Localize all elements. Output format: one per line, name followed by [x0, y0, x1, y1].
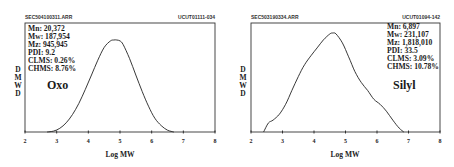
chart-silyl: SEC503190334.ARR UCUT01094-142 Mn: 6,897…	[239, 14, 441, 159]
x-tick-label: 3	[281, 138, 284, 144]
stats-box-right: Mn: 6,897 Mw: 231,107 Mz: 1,818,010 PDI:…	[387, 22, 439, 71]
x-tick-label: 7	[182, 138, 185, 144]
stat-chms: CHMS: 10.78%	[387, 62, 439, 71]
stats-box-left: Mn: 20,372 Mw: 187,954 Mz: 945,945 PDI: …	[28, 24, 76, 73]
sample-id-right: UCUT01094-142	[402, 14, 440, 20]
x-tick-label: 8	[439, 138, 442, 144]
x-axis-ticks-left: 2345678	[24, 131, 217, 145]
x-axis-label-left: Log MW	[106, 150, 135, 159]
chart-oxo: SEC504100311.ARR UCUT01111-034 Mn: 20,37…	[14, 14, 216, 159]
x-tick-label: 3	[55, 138, 58, 144]
x-axis-label-right: Log MW	[331, 150, 360, 159]
x-tick-label: 2	[250, 138, 253, 144]
x-tick-label: 2	[24, 138, 27, 144]
x-tick-label: 5	[344, 138, 347, 144]
svg-text:D: D	[240, 89, 246, 98]
y-axis-label-left: D M W D	[14, 65, 22, 98]
x-tick-label: 5	[119, 138, 122, 144]
x-tick-label: 6	[150, 138, 153, 144]
svg-text:D: D	[15, 89, 21, 98]
x-tick-label: 4	[87, 138, 90, 144]
y-axis-label-right: D M W D	[239, 65, 247, 98]
series-label-oxo: Oxo	[47, 78, 68, 92]
x-tick-label: 6	[376, 138, 379, 144]
x-axis-ticks-right: 2345678	[250, 131, 442, 145]
series-label-silyl: Silyl	[393, 78, 416, 92]
x-tick-label: 8	[214, 138, 217, 144]
file-name-left: SEC504100311.ARR	[25, 14, 73, 20]
file-name-right: SEC503190334.ARR	[251, 14, 299, 20]
distribution-curve-silyl	[264, 33, 404, 132]
x-tick-label: 7	[407, 138, 410, 144]
stat-chms: CHMS: 8.76%	[28, 64, 76, 73]
sample-id-left: UCUT01111-034	[178, 14, 215, 20]
figure: SEC504100311.ARR UCUT01111-034 Mn: 20,37…	[0, 0, 454, 167]
x-tick-label: 4	[313, 138, 316, 144]
